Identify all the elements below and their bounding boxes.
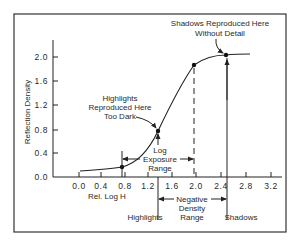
x-tick-label: 2.8 [239,181,253,191]
x-tick-label: 3.2 [264,181,278,191]
negative-density-range-label: Negative [176,195,208,204]
log-exposure-range-label: Log [153,146,166,155]
x-tick-label: 0.8 [118,181,132,191]
shadows-note-arrow [216,39,223,53]
y-tick-label: 0.0 [34,172,48,182]
shoulder-point [192,63,196,67]
shadow-point [224,53,228,57]
y-tick-label: 1.2 [34,100,48,110]
highlights-label: Highlights [127,213,162,222]
highlights-note-arrow [136,117,156,128]
x-ticks: 0.0 0.4 0.8 1.2 1.6 2.0 2.4 2.8 3.2 [72,172,278,191]
highlights-note: Reproduced Here [88,103,152,112]
y-ticks: 2.0 1.6 1.2 0.8 0.4 0.0 [34,52,58,182]
x-tick-label: 0.4 [94,181,108,191]
x-tick-label: 1.6 [165,181,179,191]
highlights-note: Highlights [102,94,137,103]
x-tick-label: 1.2 [141,181,155,191]
x-tick-label: 0.0 [72,181,86,191]
y-tick-label: 0.4 [34,148,48,158]
mid-point [156,129,160,133]
y-axis-label: Reflection Density [23,80,32,144]
shadows-label: Shadows [225,213,258,222]
log-exposure-range-label: Range [148,164,172,173]
negative-density-range-label: Range [180,213,204,222]
x-tick-label: 2.4 [214,181,228,191]
log-exposure-range-label: Exposure [143,155,177,164]
x-tick-label: 2.0 [189,181,203,191]
y-tick-label: 0.8 [34,125,48,135]
highlights-note: Too Dark [104,112,137,121]
negative-density-range-label: Density [179,204,206,213]
y-tick-label: 1.6 [34,76,48,86]
shadows-note: Shadows Reproduced Here [171,19,270,28]
y-tick-label: 2.0 [34,52,48,62]
characteristic-curve-chart: 2.0 1.6 1.2 0.8 0.4 0.0 0.0 0.4 0.8 1.2 … [0,0,302,241]
shadows-note: Without Detail [195,29,245,38]
x-axis-label: Rel. Log H [88,192,126,201]
